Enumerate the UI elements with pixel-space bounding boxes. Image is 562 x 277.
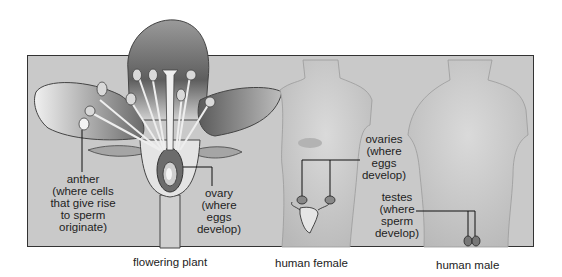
caption-flowering-plant: flowering plant bbox=[133, 256, 207, 268]
testes-label: testes (where sperm develop) bbox=[372, 191, 422, 239]
label-line: ovaries bbox=[358, 133, 410, 145]
ovaries-label: ovaries (where eggs develop) bbox=[358, 133, 410, 181]
label-line: ovary bbox=[194, 187, 244, 199]
anther-detail bbox=[79, 118, 89, 130]
ovary-label: ovary (where eggs develop) bbox=[194, 187, 244, 235]
label-line: eggs bbox=[194, 211, 244, 223]
diagram-illustration bbox=[0, 0, 562, 277]
label-line: that give rise bbox=[48, 197, 118, 209]
label-line: originate) bbox=[48, 221, 118, 233]
label-line: develop) bbox=[358, 169, 410, 181]
label-line: sperm bbox=[372, 215, 422, 227]
label-line: eggs bbox=[358, 157, 410, 169]
caption-human-female: human female bbox=[275, 257, 348, 269]
caption-human-male: human male bbox=[436, 259, 499, 271]
anther-label: anther (where cells that give rise to sp… bbox=[48, 173, 118, 233]
label-line: develop) bbox=[372, 227, 422, 239]
male-silhouette bbox=[408, 60, 528, 247]
label-line: (where bbox=[372, 203, 422, 215]
label-line: testes bbox=[372, 191, 422, 203]
label-line: develop) bbox=[194, 223, 244, 235]
label-line: (where cells bbox=[48, 185, 118, 197]
label-line: (where bbox=[358, 145, 410, 157]
label-line: (where bbox=[194, 199, 244, 211]
label-line: to sperm bbox=[48, 209, 118, 221]
label-line: anther bbox=[48, 173, 118, 185]
